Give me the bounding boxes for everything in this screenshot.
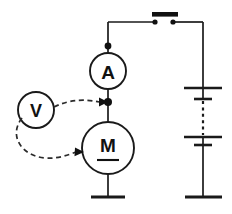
junction-ammeter-motor [104, 98, 112, 106]
voltmeter-lead-upper [54, 100, 99, 107]
switch-contact-right [170, 19, 175, 24]
voltmeter-label: V [30, 101, 42, 121]
voltmeter[interactable]: V [18, 92, 54, 128]
motor-label: M [100, 135, 116, 156]
ammeter[interactable]: A [90, 53, 126, 89]
switch-blade[interactable] [152, 12, 178, 17]
junction-top-ammeter [105, 43, 112, 50]
switch[interactable] [152, 12, 178, 25]
ammeter-label: A [101, 62, 115, 83]
circuit-canvas: A M V [0, 0, 232, 214]
switch-contact-left [152, 19, 157, 24]
circuit-diagram: A M V [0, 0, 232, 214]
